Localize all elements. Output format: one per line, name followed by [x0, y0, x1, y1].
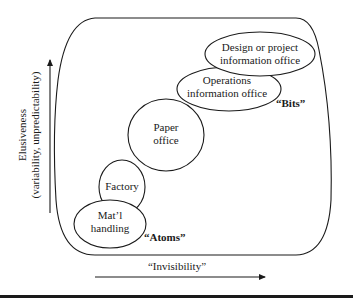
node-operations-information-office-label1: Operations	[203, 74, 251, 86]
node-matl-handling-label2: handling	[91, 222, 130, 234]
node-paper-office-label2: office	[153, 134, 179, 146]
bottom-rule	[0, 295, 353, 298]
x-axis-label: “Invisibility”	[148, 260, 206, 272]
annotation-atoms: “Atoms”	[144, 231, 186, 243]
elusiveness-invisibility-diagram: Elusiveness (variability, unpredictabili…	[0, 0, 353, 303]
node-matl-handling-label1: Mat’l	[98, 209, 122, 221]
y-axis-label-line1: Elusiveness	[16, 109, 28, 161]
node-paper-office-label1: Paper	[153, 121, 178, 133]
y-axis-label-line2: (variability, unpredictability)	[29, 71, 42, 198]
node-design-project-information-office-label1: Design or project	[222, 41, 298, 53]
node-design-project-information-office-label2: information office	[220, 54, 300, 66]
node-factory-label: Factory	[105, 180, 139, 192]
annotation-bits: “Bits”	[276, 97, 305, 109]
node-operations-information-office-label2: information office	[187, 87, 267, 99]
